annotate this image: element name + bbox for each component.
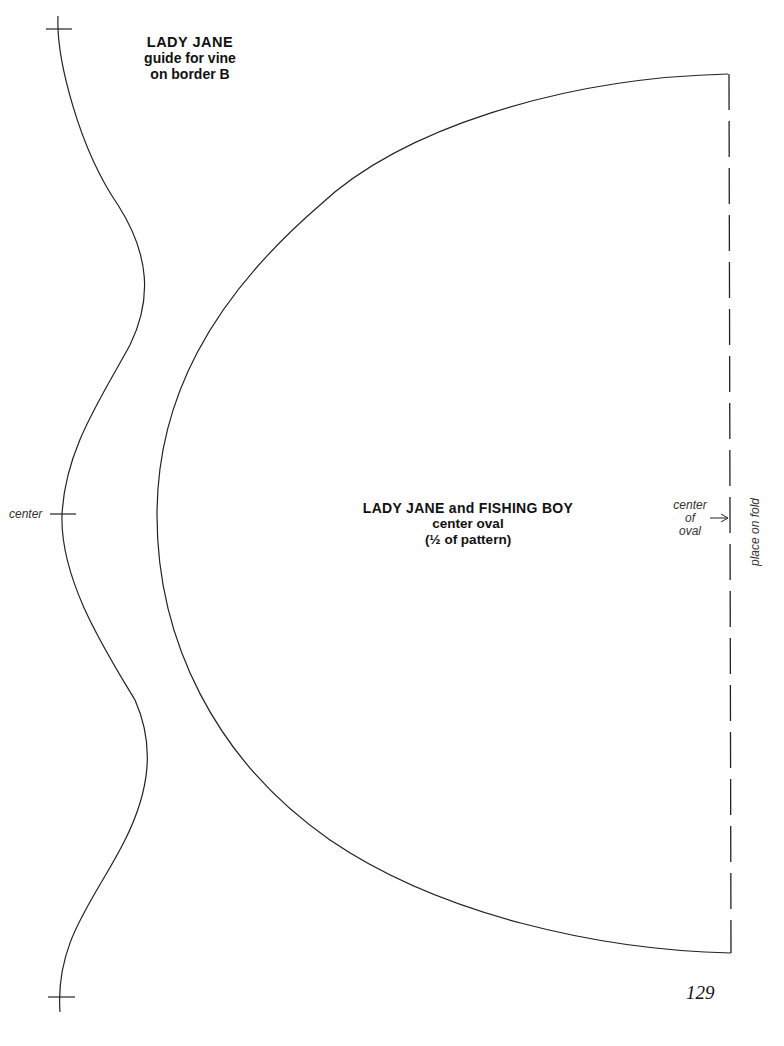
oval-title-line1: LADY JANE and FISHING BOY bbox=[318, 500, 618, 516]
page-number: 129 bbox=[686, 982, 715, 1004]
oval-title-line2: center oval bbox=[318, 516, 618, 532]
fold-label: place on fold bbox=[748, 482, 762, 582]
vine-title-line2: guide for vine bbox=[110, 50, 270, 66]
oval-center-label: center of oval bbox=[663, 499, 717, 538]
vine-center-label: center bbox=[9, 507, 42, 521]
oval-title-line3: (½ of pattern) bbox=[318, 532, 618, 548]
fold-line bbox=[729, 74, 731, 953]
oval-center-line3: oval bbox=[663, 525, 717, 538]
vine-title-line1: LADY JANE bbox=[110, 34, 270, 50]
vine-guide-title: LADY JANE guide for vine on border B bbox=[110, 34, 270, 82]
vine-title-line3: on border B bbox=[110, 66, 270, 82]
oval-title: LADY JANE and FISHING BOY center oval (½… bbox=[318, 500, 618, 548]
